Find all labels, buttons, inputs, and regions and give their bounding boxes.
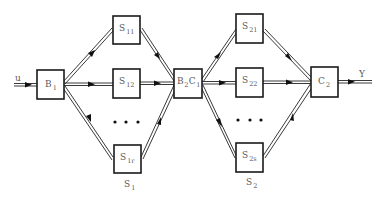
wire-b1-s11 <box>63 28 113 84</box>
arrow-s22-c2-icon <box>286 80 293 86</box>
block-b1: B1 <box>37 70 64 99</box>
ellipsis-stage2 <box>236 118 262 121</box>
block-s1r-label: S <box>120 152 126 162</box>
arrow-output-icon <box>348 79 355 85</box>
block-c2: C2 <box>311 67 338 97</box>
output-label: Y <box>358 69 366 79</box>
stage1-label-subscript: 1 <box>131 184 135 192</box>
stage2-label-subscript: 2 <box>253 182 257 190</box>
block-b1-label: B <box>45 79 52 89</box>
block-s1r: S1r <box>114 145 141 173</box>
block-s11-label: S <box>119 23 125 33</box>
block-s2s-label: S <box>242 150 248 160</box>
block-c2-subscript: 2 <box>326 81 330 89</box>
arrow-b1-s12-icon <box>88 82 95 88</box>
block-s12-label: S <box>119 76 125 86</box>
block-s2s: S2s <box>236 143 263 172</box>
wire-b1-s1r <box>63 86 113 160</box>
block-s22: S22 <box>236 68 263 97</box>
arrow-s21-c2-icon <box>285 53 292 61</box>
block-s21-subscript: 21 <box>249 26 257 34</box>
block-diagram: B1 S11 S12 S1r B2C1 S21 S22 S2s <box>0 0 384 197</box>
stage2-label: S2 <box>246 177 257 190</box>
input-label: u <box>15 73 21 83</box>
arrow-b2c1-s22-icon <box>219 80 226 86</box>
block-s2s-subscript: 2s <box>249 155 256 163</box>
wire-s2s-c2 <box>263 83 313 158</box>
block-s22-label: S <box>242 75 248 85</box>
block-s11: S11 <box>113 16 140 44</box>
block-s21: S21 <box>236 14 263 43</box>
block-b2c1: B2C1 <box>174 69 202 98</box>
wire-output <box>338 81 372 84</box>
block-s22-subscript: 22 <box>249 80 257 88</box>
block-s1r-subscript: 1r <box>127 157 135 165</box>
stage1-label-main: S <box>124 179 130 189</box>
block-c2-label: C <box>318 76 325 86</box>
block-b1-subscript: 1 <box>53 84 57 92</box>
arrow-s12-b2c1-icon <box>154 81 161 87</box>
block-b2c1-label-b: B <box>177 76 184 86</box>
ellipsis-stage1 <box>113 120 139 123</box>
block-b2c1-subscript-b: 2 <box>184 81 188 89</box>
block-s11-subscript: 11 <box>126 28 134 36</box>
stage1-label: S1 <box>124 179 135 192</box>
block-s12-subscript: 12 <box>126 81 134 89</box>
block-s12: S12 <box>113 69 140 98</box>
arrow-input-icon <box>25 82 32 88</box>
block-b2c1-subscript-c: 1 <box>196 81 200 89</box>
stage2-label-main: S <box>246 177 252 187</box>
block-b2c1-label-c: C <box>189 76 196 86</box>
block-s21-label: S <box>242 21 248 31</box>
